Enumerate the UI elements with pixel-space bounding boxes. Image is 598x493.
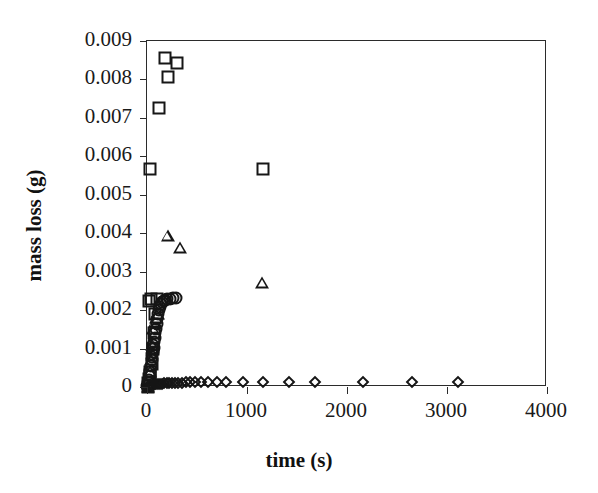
x-axis-title: time (s) <box>0 448 598 473</box>
data-point-squares <box>161 71 174 84</box>
y-axis-tick <box>140 41 147 42</box>
data-point-circles <box>146 351 159 364</box>
data-point-squares <box>257 162 270 175</box>
y-axis-tick <box>140 156 147 157</box>
plot-frame <box>146 40 546 386</box>
x-axis-tick <box>347 387 348 394</box>
data-point-diamonds <box>220 376 233 389</box>
y-axis-tick <box>140 349 147 350</box>
y-axis-tick-label: 0.003 <box>85 260 132 281</box>
x-axis-tick-label: 2000 <box>325 400 367 421</box>
y-axis-tick-label: 0.009 <box>85 29 132 50</box>
y-axis-tick <box>140 195 147 196</box>
x-axis-tick-label: 1000 <box>225 400 267 421</box>
y-axis-tick <box>140 233 147 234</box>
x-axis-tick-label: 3000 <box>425 400 467 421</box>
y-axis-tick-label: 0.008 <box>85 67 132 88</box>
data-point-diamonds <box>357 376 370 389</box>
y-axis-tick <box>140 118 147 119</box>
x-axis-tick-label: 4000 <box>525 400 567 421</box>
y-axis-tick <box>140 79 147 80</box>
x-axis-tick <box>147 387 148 394</box>
y-axis-tick <box>140 272 147 273</box>
data-point-squares <box>171 57 184 70</box>
data-point-diamonds <box>452 376 465 389</box>
y-axis-tick <box>140 310 147 311</box>
y-axis-tick-label: 0.001 <box>85 337 132 358</box>
y-axis-tick-label: 0.007 <box>85 106 132 127</box>
data-point-diamonds <box>283 376 296 389</box>
data-point-circles <box>170 291 183 304</box>
y-axis-tick-label: 0.006 <box>85 144 132 165</box>
data-point-squares <box>153 101 166 114</box>
y-axis-tick-label: 0.005 <box>85 183 132 204</box>
data-point-squares <box>144 162 157 175</box>
data-point-triangles <box>173 241 187 253</box>
data-point-diamonds <box>257 376 270 389</box>
plot-canvas <box>147 41 545 385</box>
x-axis-tick-label: 0 <box>141 400 152 421</box>
data-point-triangles <box>255 277 269 289</box>
y-axis-tick-label: 0 <box>122 375 133 396</box>
y-axis-tick-label: 0.004 <box>85 221 132 242</box>
y-axis-tick-label: 0.002 <box>85 298 132 319</box>
data-point-diamonds <box>406 376 419 389</box>
data-point-triangles <box>161 229 175 241</box>
data-point-squares <box>158 51 171 64</box>
x-axis-tick <box>247 387 248 394</box>
x-axis-tick <box>447 387 448 394</box>
scatter-plot-figure: 00.0010.0020.0030.0040.0050.0060.0070.00… <box>0 0 598 493</box>
data-point-diamonds <box>309 376 322 389</box>
x-axis-tick <box>547 387 548 394</box>
y-axis-title: mass loss (g) <box>22 106 47 346</box>
y-axis-tick <box>140 387 147 388</box>
